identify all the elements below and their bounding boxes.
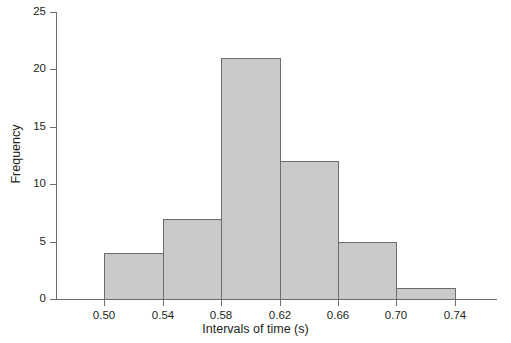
histogram-bar [280, 161, 339, 300]
x-axis-tick-label-text: 0.66 [308, 308, 368, 322]
y-axis-line [56, 12, 57, 300]
histogram-bar [396, 288, 456, 300]
x-axis-tick-label-text: 0.74 [425, 308, 485, 322]
y-axis-tick-label-text: 20 [2, 63, 46, 75]
histogram-bar [104, 253, 164, 300]
histogram-bar [338, 242, 397, 300]
x-axis-tick-label-text: 0.70 [366, 308, 426, 322]
y-axis-tick [50, 184, 56, 185]
x-axis-tick [280, 300, 281, 306]
x-axis-tick [338, 300, 339, 306]
x-axis-title: Intervals of time (s) [0, 322, 511, 337]
y-axis-tick [50, 242, 56, 243]
x-axis-tick [396, 300, 397, 306]
histogram-bar [221, 58, 281, 300]
y-axis-tick-label: 20 [0, 63, 46, 75]
x-axis-tick-label: 0.62 [250, 308, 310, 322]
x-axis-tick [104, 300, 105, 306]
y-axis-tick-label: 10 [0, 178, 46, 190]
x-axis-tick-label: 0.70 [366, 308, 426, 322]
y-axis-tick-label-text: 5 [2, 236, 46, 248]
histogram-bar [163, 219, 222, 300]
y-axis-tick-label: 15 [0, 121, 46, 133]
x-axis-tick-label-text: 0.58 [191, 308, 251, 322]
x-axis-tick-label: 0.74 [425, 308, 485, 322]
y-axis-tick-label-text: 25 [2, 6, 46, 18]
x-axis-tick-label: 0.66 [308, 308, 368, 322]
y-axis-tick-label-text: 0 [2, 293, 46, 305]
y-axis-tick [50, 69, 56, 70]
y-axis-tick [50, 299, 56, 300]
y-axis-tick-label: 25 [0, 6, 46, 18]
x-axis-tick [455, 300, 456, 306]
y-axis-tick-label: 0 [0, 293, 46, 305]
x-axis-tick-label-text: 0.62 [250, 308, 310, 322]
x-axis-tick-label: 0.50 [74, 308, 134, 322]
x-axis-tick-label: 0.58 [191, 308, 251, 322]
y-axis-title: Frequency [9, 94, 23, 214]
histogram-chart: 0510152025 0.500.540.580.620.660.700.74 … [0, 0, 511, 343]
y-axis-tick [50, 127, 56, 128]
x-axis-tick [221, 300, 222, 306]
x-axis-tick-label: 0.54 [133, 308, 193, 322]
x-axis-tick [163, 300, 164, 306]
y-axis-tick [50, 12, 56, 13]
y-axis-tick-label: 5 [0, 236, 46, 248]
x-axis-tick-label-text: 0.50 [74, 308, 134, 322]
x-axis-tick-label-text: 0.54 [133, 308, 193, 322]
